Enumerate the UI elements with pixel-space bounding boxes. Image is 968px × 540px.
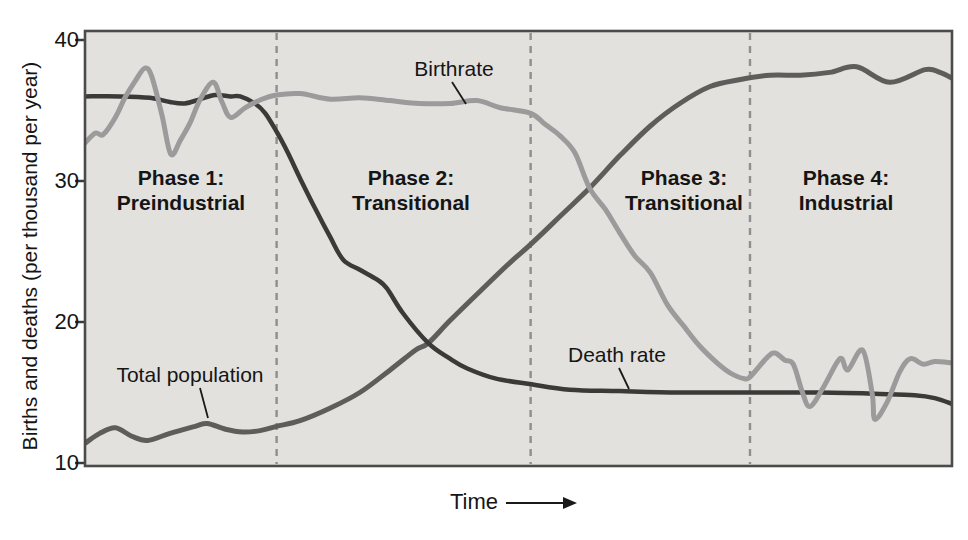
birthrate-curve-label: Birthrate	[374, 57, 534, 81]
demographic-transition-figure: 40 30 20 10 Births and deaths (per thous…	[0, 0, 968, 540]
phase-2-label-line2: Transitional	[301, 190, 521, 215]
phase-1-label-line2: Preindustrial	[71, 190, 291, 215]
time-arrow-head	[563, 497, 577, 509]
phase-2-label: Phase 2: Transitional	[301, 165, 521, 215]
phase-4-label-line2: Industrial	[736, 190, 956, 215]
phase-4-label-line1: Phase 4:	[736, 165, 956, 190]
phase-2-label-line1: Phase 2:	[301, 165, 521, 190]
phase-1-label: Phase 1: Preindustrial	[71, 165, 291, 215]
phase-1-label-line1: Phase 1:	[71, 165, 291, 190]
population-curve-label: Total population	[80, 363, 300, 387]
time-axis-label: Time	[414, 490, 534, 514]
chart-canvas	[0, 0, 968, 540]
phase-4-label: Phase 4: Industrial	[736, 165, 956, 215]
death-rate-curve-label: Death rate	[537, 343, 697, 367]
y-axis-title: Births and deaths (per thousand per year…	[17, 26, 43, 486]
